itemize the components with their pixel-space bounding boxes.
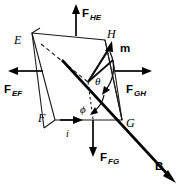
edge-inner-right	[113, 60, 122, 120]
fef-arrowhead	[8, 67, 18, 75]
fgh-subscript: GH	[134, 89, 146, 98]
ffg-subscript: FG	[108, 157, 119, 166]
vertex-label-g: G	[126, 116, 135, 130]
current-label: i	[66, 128, 69, 139]
theta-arc-arrowhead	[102, 86, 110, 95]
current-arrowhead	[73, 116, 83, 124]
angle-label-phi: ϕ	[80, 103, 86, 115]
force-vector-fhe: F HE	[72, 4, 102, 36]
edge-lower-f	[44, 120, 55, 128]
vertex-label-h: H	[106, 27, 117, 41]
force-vector-fgh: F GH	[115, 67, 152, 98]
fgh-label: F	[126, 83, 133, 95]
fef-subscript: EF	[12, 89, 23, 98]
moment-label-m: m	[120, 42, 130, 54]
edge-e-tick	[32, 28, 40, 33]
vertex-label-f: F	[37, 111, 46, 125]
angle-label-theta: θ	[95, 75, 101, 87]
vertex-label-e: E	[13, 33, 22, 47]
force-vector-ffg: F FG	[89, 120, 119, 166]
current-indicator: i	[60, 116, 83, 139]
ffg-arrowhead	[89, 147, 97, 157]
fgh-arrowhead	[142, 67, 152, 75]
fhe-label: F	[82, 7, 89, 19]
field-label-b: B	[155, 160, 163, 172]
fef-label: F	[4, 83, 11, 95]
ffg-label: F	[100, 151, 107, 163]
figure-container: F HE F EF F GH F FG i	[0, 0, 187, 193]
fhe-subscript: HE	[90, 13, 102, 22]
fhe-arrowhead	[72, 4, 80, 14]
force-vector-fef: F EF	[4, 67, 43, 98]
force-diagram-svg: F HE F EF F GH F FG i	[0, 0, 187, 193]
